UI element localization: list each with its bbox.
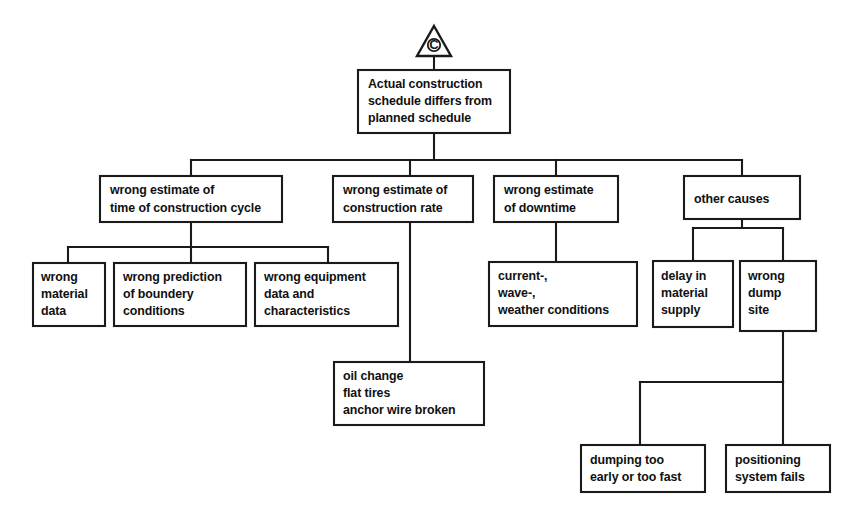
node-cause-2-line-1: wrong estimate of (342, 183, 448, 197)
fault-tree-diagram: C Actual construction schedule differs f… (0, 0, 862, 515)
node-leaf-7[interactable]: wrong dump site (740, 261, 816, 331)
node-cause-4[interactable]: other causes (684, 176, 800, 219)
node-leaf-4-line-3: anchor wire broken (343, 403, 456, 417)
node-leaf-6[interactable]: delay in material supply (653, 261, 733, 327)
node-cause-3[interactable]: wrong estimate of downtime (494, 176, 618, 222)
node-leaf-1-line-3: data (41, 304, 66, 318)
node-leaf-8-line-2: early or too fast (590, 470, 681, 484)
node-leaf-9-line-1: positioning (735, 453, 801, 467)
node-leaf-1-line-2: material (41, 287, 88, 301)
node-leaf-3-line-2: data and (264, 287, 314, 301)
node-cause-2[interactable]: wrong estimate of construction rate (333, 176, 473, 222)
node-top-event-line-1: Actual construction (368, 77, 482, 91)
node-leaf-6-line-3: supply (661, 303, 701, 317)
node-leaf-8[interactable]: dumping too early or too fast (581, 445, 705, 492)
node-cause-3-line-1: wrong estimate (503, 183, 594, 197)
node-leaf-4[interactable]: oil change flat tires anchor wire broken (334, 362, 484, 425)
node-leaf-2-line-1: wrong prediction (122, 270, 222, 284)
node-leaf-5-line-1: current-, (498, 269, 547, 283)
node-leaf-4-line-1: oil change (343, 369, 403, 383)
node-leaf-6-line-2: material (661, 286, 708, 300)
node-leaf-2-line-2: of boundery (123, 287, 194, 301)
node-top-event[interactable]: Actual construction schedule differs fro… (358, 70, 510, 133)
node-leaf-2[interactable]: wrong prediction of boundery conditions (114, 263, 246, 326)
node-leaf-5[interactable]: current-, wave-, weather conditions (489, 262, 637, 326)
node-leaf-7-line-1: wrong (747, 269, 785, 283)
node-leaf-1-line-1: wrong (40, 270, 78, 284)
node-leaf-5-line-3: weather conditions (497, 303, 609, 317)
node-cause-2-line-2: construction rate (343, 201, 443, 215)
node-leaf-7-line-3: site (748, 303, 769, 317)
node-cause-1-line-1: wrong estimate of (109, 183, 215, 197)
node-leaf-1[interactable]: wrong material data (33, 263, 105, 326)
node-leaf-7-line-2: dump (748, 286, 782, 300)
node-leaf-3-line-3: characteristics (264, 304, 350, 318)
fault-tree-canvas: C Actual construction schedule differs f… (0, 0, 862, 515)
node-leaf-4-line-2: flat tires (343, 386, 390, 400)
node-leaf-5-line-2: wave-, (497, 286, 535, 300)
node-leaf-9[interactable]: positioning system fails (726, 445, 830, 492)
node-leaf-3-line-1: wrong equipment (263, 270, 366, 284)
transfer-gate-c: C (417, 26, 451, 56)
node-leaf-6-line-1: delay in (661, 269, 706, 283)
node-cause-3-line-2: of downtime (504, 201, 576, 215)
node-leaf-9-line-2: system fails (735, 470, 805, 484)
gate-letter-label: C (429, 37, 439, 52)
node-leaf-3[interactable]: wrong equipment data and characteristics (255, 263, 398, 326)
node-top-event-line-3: planned schedule (368, 111, 471, 125)
node-top-event-line-2: schedule differs from (368, 94, 492, 108)
node-leaf-8-line-1: dumping too (590, 453, 664, 467)
node-cause-1-line-2: time of construction cycle (110, 201, 261, 215)
node-cause-4-line-1: other causes (694, 192, 769, 206)
node-leaf-2-line-3: conditions (123, 304, 185, 318)
node-cause-1[interactable]: wrong estimate of time of construction c… (100, 176, 282, 222)
